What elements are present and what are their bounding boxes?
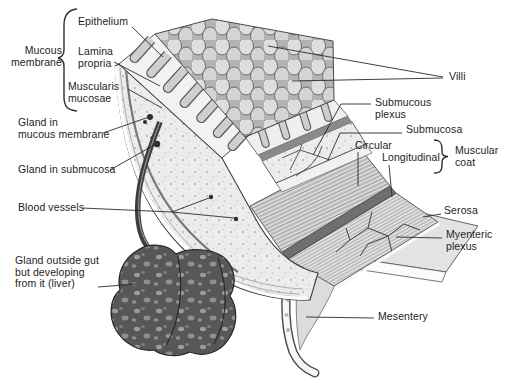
label-muscularis-mucosae: Muscularis mucosae [68,81,119,104]
blood-vessel-spot [209,195,213,199]
liver-gland [111,245,236,356]
label-gland-outside-gut: Gland outside gut but developing from it… [15,255,99,290]
label-muscular-coat: Muscular coat [455,145,498,168]
label-serosa: Serosa [444,205,478,217]
label-submucosa: Submucosa [406,124,462,136]
label-mucous-membrane: Mucous membrane [6,45,62,68]
gut-wall-illustration [0,0,509,379]
label-lamina-propria: Lamina propria [78,46,113,69]
label-blood-vessels: Blood vessels [18,202,84,214]
label-mesentery: Mesentery [378,311,428,323]
label-gland-in-mucous-membrane: Gland in mucous membrane [18,117,109,140]
label-longitudinal: Longitudinal [382,152,440,164]
label-circular: Circular [355,140,392,152]
blood-vessel-spot [234,217,238,221]
label-epithelium: Epithelium [78,16,128,28]
label-submucous-plexus: Submucous plexus [375,97,431,120]
gut-wall-diagram: Epithelium Mucous membrane Lamina propri… [0,0,509,379]
label-gland-in-submucosa: Gland in submucosa [18,164,116,176]
label-myenteric-plexus: Myenteric plexus [446,229,492,252]
label-villi: Villi [449,71,466,83]
